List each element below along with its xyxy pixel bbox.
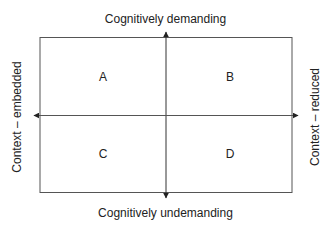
quadrant-diagram: Cognitively demanding Cognitively undema… <box>0 0 331 229</box>
quadrant-label-d: D <box>226 148 235 160</box>
diagram-lines <box>0 0 331 229</box>
quadrant-label-c: C <box>99 148 108 160</box>
axis-label-top: Cognitively demanding <box>0 13 331 25</box>
quadrant-label-b: B <box>226 71 234 83</box>
axis-label-left: Context – embedded <box>11 61 23 172</box>
axis-label-bottom: Cognitively undemanding <box>0 207 331 219</box>
axis-label-right: Context – reduced <box>309 68 321 166</box>
quadrant-label-a: A <box>99 71 107 83</box>
